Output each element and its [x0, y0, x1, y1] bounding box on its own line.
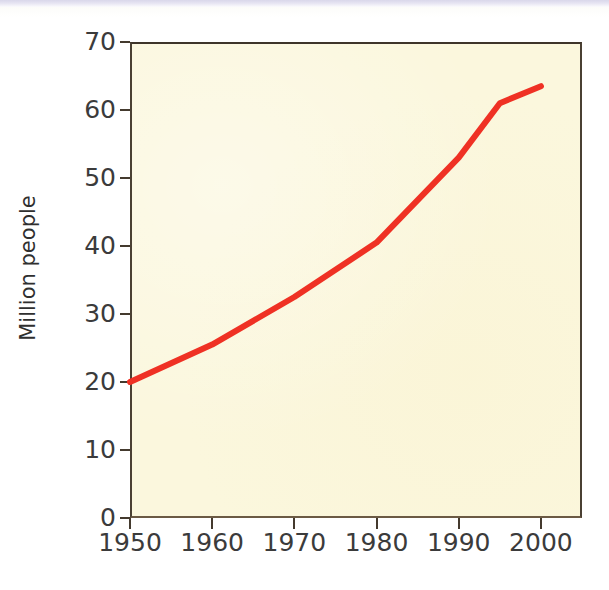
y-tick-60	[120, 109, 130, 111]
y-tick-40	[120, 245, 130, 247]
y-tick-label-60: 60	[56, 97, 116, 122]
y-tick-label-20: 20	[56, 369, 116, 394]
y-tick-label-10: 10	[56, 437, 116, 462]
y-tick-label-wrap: 30	[52, 301, 116, 327]
chart-page: 010203040506070 195019601970198019902000…	[0, 0, 609, 590]
y-tick-label-0: 0	[56, 505, 116, 530]
y-tick-label-wrap: 20	[52, 369, 116, 395]
y-tick-label-50: 50	[56, 165, 116, 190]
y-tick-label-wrap: 40	[52, 233, 116, 259]
y-tick-10	[120, 449, 130, 451]
x-tick-label-2000: 2000	[486, 530, 596, 555]
y-tick-label-wrap: 50	[52, 165, 116, 191]
y-tick-label-wrap: 60	[52, 97, 116, 123]
y-axis-title: Million people	[16, 178, 40, 358]
line-chart: 010203040506070 195019601970198019902000…	[0, 0, 609, 590]
series-line-million-people	[130, 86, 541, 382]
y-tick-label-30: 30	[56, 301, 116, 326]
y-tick-label-70: 70	[56, 29, 116, 54]
y-tick-30	[120, 313, 130, 315]
y-tick-label-40: 40	[56, 233, 116, 258]
y-tick-70	[120, 41, 130, 43]
y-tick-label-wrap: 70	[52, 29, 116, 55]
y-tick-50	[120, 177, 130, 179]
y-tick-label-wrap: 10	[52, 437, 116, 463]
series-layer	[130, 42, 582, 518]
